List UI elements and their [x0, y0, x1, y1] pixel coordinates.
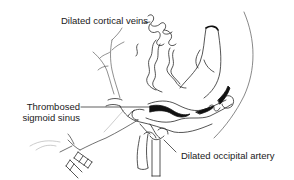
label-sinus-line1: Thrombosed	[12, 101, 80, 112]
label-dilated-cortical-veins: Dilated cortical veins	[61, 15, 148, 26]
label-dilated-occipital-artery: Dilated occipital artery	[181, 150, 274, 161]
fine-veins-left	[93, 28, 124, 98]
skull-outline	[214, 12, 253, 138]
thrombus	[196, 106, 214, 114]
descending-vessels	[137, 128, 168, 176]
label-sinus-line2: sigmoid sinus	[12, 112, 80, 123]
cortical-veins	[136, 15, 186, 92]
leader-lines	[81, 22, 176, 152]
label-thrombosed-sigmoid-sinus: Thrombosed sigmoid sinus	[12, 101, 80, 123]
thrombus	[150, 105, 190, 117]
leader-artery	[164, 140, 176, 152]
sigmoid-sinus	[106, 86, 234, 122]
occipital-artery	[60, 120, 138, 152]
segmented-vessel	[66, 152, 92, 178]
sinus-vessel-upper	[180, 26, 221, 98]
figure-canvas: Dilated cortical veins Thrombosed sigmoi…	[0, 0, 294, 180]
